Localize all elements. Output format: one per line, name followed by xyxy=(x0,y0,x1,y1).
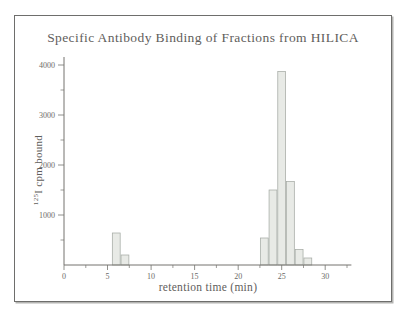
x-tick-label: 25 xyxy=(278,272,286,281)
x-tick-label: 10 xyxy=(147,272,155,281)
bar xyxy=(269,190,277,265)
y-tick-label: 4000 xyxy=(39,61,55,70)
bar xyxy=(304,258,312,265)
y-tick-label: 1000 xyxy=(39,211,55,220)
bar xyxy=(260,238,268,265)
bar xyxy=(295,250,303,266)
figure-canvas: Specific Antibody Binding of Fractions f… xyxy=(0,0,409,320)
x-tick-label: 5 xyxy=(106,272,110,281)
x-tick-label: 15 xyxy=(191,272,199,281)
y-tick-label: 2000 xyxy=(39,161,55,170)
x-tick-label: 30 xyxy=(321,272,329,281)
y-tick-label: 3000 xyxy=(39,111,55,120)
bar xyxy=(278,72,286,266)
bar xyxy=(112,233,120,265)
x-tick-label: 20 xyxy=(234,272,242,281)
x-tick-label: 0 xyxy=(62,272,66,281)
bar xyxy=(286,182,294,266)
bar xyxy=(121,255,129,265)
plot-area: 1000200030004000051015202530 xyxy=(0,0,409,320)
